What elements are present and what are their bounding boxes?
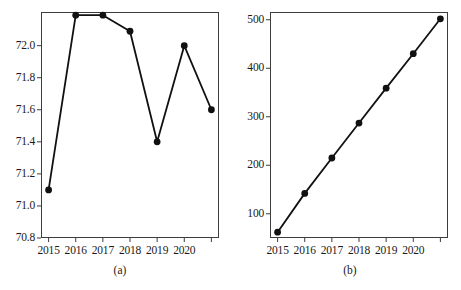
chart-panel-a: 70.871.071.271.471.671.872.0201520162017… (0, 0, 230, 290)
data-point-marker (328, 155, 335, 162)
figure-two-line-charts: 70.871.071.271.471.671.872.0201520162017… (0, 0, 461, 290)
y-axis-tick-label: 71.8 (0, 72, 35, 84)
data-point-marker (154, 138, 161, 145)
data-point-marker (99, 12, 106, 19)
data-point-marker (208, 106, 215, 113)
y-axis-tick-label: 71.4 (0, 136, 35, 148)
panel-caption: (a) (90, 264, 150, 276)
y-axis-tick-label: 70.8 (0, 232, 35, 244)
panel-caption: (b) (320, 264, 380, 276)
y-axis-tick-label: 71.0 (0, 200, 35, 212)
y-axis-tick-label: 400 (228, 62, 264, 74)
y-axis-tick-label: 100 (228, 208, 264, 220)
chart-panel-b: 100200300400500201520162017201820192020(… (230, 0, 460, 290)
data-point-marker (356, 120, 363, 127)
data-point-marker (383, 85, 390, 92)
y-axis-tick-label: 71.6 (0, 104, 35, 116)
data-point-marker (301, 190, 308, 197)
data-point-marker (45, 187, 52, 194)
data-point-marker (274, 229, 281, 236)
data-point-marker (72, 12, 79, 19)
x-axis-tick-label: 2020 (164, 245, 204, 257)
y-axis-tick-label: 71.2 (0, 168, 35, 180)
y-axis-tick-label: 200 (228, 159, 264, 171)
data-point-marker (410, 50, 417, 57)
y-axis-tick-label: 500 (228, 14, 264, 26)
data-point-marker (181, 42, 188, 49)
data-point-marker (127, 28, 134, 35)
y-axis-tick-label: 300 (228, 111, 264, 123)
y-axis-tick-label: 72.0 (0, 40, 35, 52)
data-line (49, 15, 212, 190)
data-point-marker (437, 15, 444, 22)
x-axis-tick-label: 2020 (393, 245, 433, 257)
